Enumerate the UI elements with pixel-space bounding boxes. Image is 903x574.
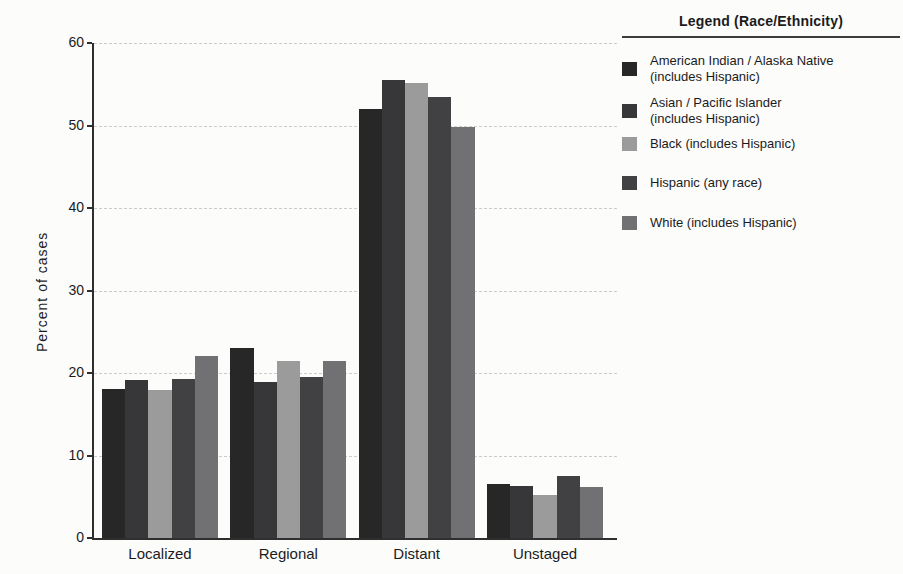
- y-tick-60: [87, 42, 92, 44]
- bar-localized-american-indian-alaska-native: [102, 389, 125, 538]
- bar-regional-black: [277, 361, 300, 538]
- bar-distant-american-indian-alaska-native: [359, 109, 382, 538]
- y-tick-50: [87, 125, 92, 127]
- legend-item-label: White (includes Hispanic): [650, 215, 797, 231]
- bar-distant-white: [451, 127, 474, 538]
- bar-unstaged-american-indian-alaska-native: [487, 484, 510, 538]
- bar-group-localized: [102, 43, 218, 538]
- y-tick-label-40: 40: [46, 199, 84, 215]
- bar-regional-asian-pacific-islander: [254, 382, 277, 538]
- bar-distant-black: [405, 83, 428, 538]
- x-category-label-distant: Distant: [393, 545, 440, 562]
- bar-unstaged-asian-pacific-islander: [510, 486, 533, 538]
- legend-swatch-icon: [622, 62, 637, 76]
- bar-unstaged-black: [533, 495, 556, 538]
- plot-area: LocalizedRegionalDistantUnstaged: [92, 43, 617, 540]
- legend-item-black-includes-hispanic: Black (includes Hispanic): [622, 136, 900, 152]
- bar-localized-asian-pacific-islander: [125, 380, 148, 538]
- x-category-label-localized: Localized: [128, 545, 191, 562]
- y-tick-20: [87, 372, 92, 374]
- y-tick-label-50: 50: [46, 117, 84, 133]
- legend-item-label: Hispanic (any race): [650, 175, 762, 191]
- bar-distant-hispanic: [428, 97, 451, 538]
- bar-regional-white: [323, 361, 346, 538]
- legend-swatch-icon: [622, 176, 637, 190]
- legend-item-hispanic-any-race: Hispanic (any race): [622, 175, 900, 191]
- legend-item-american-indian-alaska-native: American Indian / Alaska Native(includes…: [622, 53, 900, 86]
- bar-unstaged-hispanic: [557, 476, 580, 538]
- y-tick-label-60: 60: [46, 34, 84, 50]
- legend: Legend (Race/Ethnicity) American Indian …: [622, 13, 900, 254]
- y-tick-label-10: 10: [46, 447, 84, 463]
- bar-group-distant: [359, 43, 475, 538]
- legend-title: Legend (Race/Ethnicity): [622, 13, 900, 29]
- x-category-label-regional: Regional: [259, 545, 318, 562]
- y-tick-label-0: 0: [46, 529, 84, 545]
- bar-localized-hispanic: [172, 379, 195, 538]
- bar-unstaged-white: [580, 487, 603, 538]
- bar-localized-white: [195, 356, 218, 538]
- y-tick-label-30: 30: [46, 282, 84, 298]
- y-tick-label-20: 20: [46, 364, 84, 380]
- legend-divider: [622, 36, 900, 38]
- y-tick-0: [87, 537, 92, 539]
- bar-group-unstaged: [487, 43, 603, 538]
- bar-regional-american-indian-alaska-native: [230, 348, 253, 538]
- legend-item-asian-pacific-islander: Asian / Pacific Islander(includes Hispan…: [622, 95, 900, 128]
- y-tick-10: [87, 455, 92, 457]
- legend-swatch-icon: [622, 104, 637, 118]
- bar-localized-black: [148, 390, 171, 538]
- legend-swatch-icon: [622, 216, 637, 230]
- legend-swatch-icon: [622, 137, 637, 151]
- bar-group-regional: [230, 43, 346, 538]
- legend-item-white-includes-hispanic: White (includes Hispanic): [622, 215, 900, 231]
- legend-item-label: American Indian / Alaska Native(includes…: [650, 53, 834, 86]
- x-category-label-unstaged: Unstaged: [513, 545, 577, 562]
- legend-item-label: Black (includes Hispanic): [650, 136, 795, 152]
- bar-distant-asian-pacific-islander: [382, 80, 405, 538]
- y-tick-40: [87, 207, 92, 209]
- legend-item-label: Asian / Pacific Islander(includes Hispan…: [650, 95, 782, 128]
- legend-items: American Indian / Alaska Native(includes…: [622, 53, 900, 231]
- y-tick-30: [87, 290, 92, 292]
- stage-distribution-bar-chart: Percent of cases LocalizedRegionalDistan…: [0, 0, 903, 574]
- bar-regional-hispanic: [300, 377, 323, 538]
